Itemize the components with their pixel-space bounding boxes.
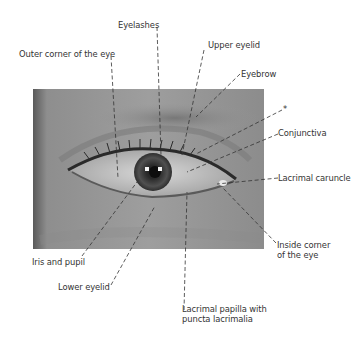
label-inside-corner: Inside corner of the eye: [277, 240, 330, 260]
label-lower-eyelid: Lower eyelid: [58, 282, 110, 292]
label-iris-and-pupil: Iris and pupil: [32, 257, 85, 267]
label-eyebrow: Eyebrow: [241, 69, 276, 79]
label-lacrimal-papilla: Lacrimal papilla with puncta lacrimalia: [182, 304, 267, 324]
label-asterisk: *: [283, 104, 287, 114]
label-upper-eyelid: Upper eyelid: [208, 40, 260, 50]
eye-photo: [33, 89, 264, 249]
eye-anatomy-figure: Eyelashes Outer corner of the eye Upper …: [0, 0, 360, 342]
label-eyelashes: Eyelashes: [118, 20, 159, 30]
label-lacrimal-caruncle: Lacrimal caruncle: [278, 173, 351, 183]
label-conjunctiva: Conjunctiva: [278, 128, 326, 138]
label-outer-corner: Outer corner of the eye: [19, 49, 115, 59]
